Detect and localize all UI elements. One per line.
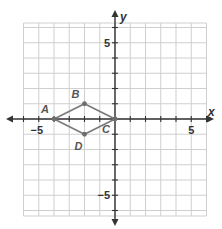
vertex-label-c: C bbox=[102, 123, 111, 135]
y-axis-label: y bbox=[119, 10, 128, 24]
vertex-d bbox=[82, 132, 87, 137]
y-tick-label: −5 bbox=[97, 189, 110, 201]
vertex-c bbox=[113, 117, 118, 122]
vertex-a bbox=[52, 117, 57, 122]
x-axis-arrow-left bbox=[6, 116, 13, 123]
y-axis-arrow-down bbox=[112, 219, 119, 226]
x-axis-label: x bbox=[207, 105, 216, 119]
vertex-b bbox=[82, 101, 87, 106]
polygon-abcd: ABCD bbox=[40, 88, 117, 153]
x-tick-label: 5 bbox=[188, 124, 194, 136]
vertex-label-a: A bbox=[40, 103, 49, 115]
y-tick-label: 5 bbox=[104, 37, 110, 49]
vertex-label-b: B bbox=[72, 88, 80, 100]
x-tick-label: −5 bbox=[30, 124, 43, 136]
coordinate-plane: x y −555−5 ABCD bbox=[0, 0, 222, 229]
vertex-label-d: D bbox=[75, 140, 83, 152]
y-axis-arrow-up bbox=[112, 10, 119, 17]
